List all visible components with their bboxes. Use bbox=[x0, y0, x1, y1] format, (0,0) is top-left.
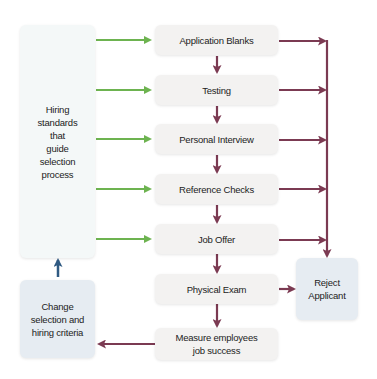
hiring-standards-box: Hiring standards that guide selection pr… bbox=[20, 25, 95, 258]
step-testing: Testing bbox=[155, 75, 278, 105]
reject-applicant-box: Reject Applicant bbox=[296, 258, 358, 320]
step-label: Testing bbox=[202, 84, 231, 97]
step-measure-job-success: Measure employees job success bbox=[155, 328, 278, 360]
reject-applicant-label: Reject Applicant bbox=[308, 276, 345, 302]
step-label: Reference Checks bbox=[179, 183, 254, 196]
hiring-standards-label: Hiring standards that guide selection pr… bbox=[38, 103, 78, 181]
step-label: Measure employees job success bbox=[175, 331, 257, 357]
step-reference-checks: Reference Checks bbox=[155, 174, 278, 204]
step-job-offer: Job Offer bbox=[155, 224, 278, 254]
change-criteria-label: Change selection and hiring criteria bbox=[31, 300, 84, 339]
reject-arrows bbox=[279, 40, 327, 289]
step-label: Physical Exam bbox=[187, 283, 247, 296]
step-application-blanks: Application Blanks bbox=[155, 25, 278, 55]
green-arrows bbox=[96, 40, 150, 239]
step-physical-exam: Physical Exam bbox=[155, 274, 278, 304]
step-label: Application Blanks bbox=[179, 34, 253, 47]
step-label: Job Offer bbox=[198, 233, 235, 246]
change-criteria-box: Change selection and hiring criteria bbox=[20, 280, 95, 358]
step-personal-interview: Personal Interview bbox=[155, 124, 278, 154]
step-label: Personal Interview bbox=[179, 133, 254, 146]
